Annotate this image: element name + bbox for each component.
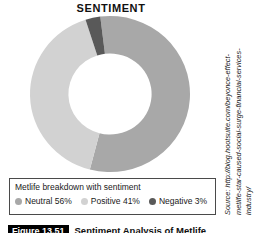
- legend-swatch-positive-icon: [81, 198, 88, 205]
- donut-slice-positive: [30, 20, 100, 170]
- legend-item-negative: Negative 3%: [149, 196, 207, 206]
- legend-label-positive: Positive 41%: [91, 196, 140, 206]
- source-note: Source: http://blog.hootsuite.com/beyonc…: [221, 0, 270, 218]
- page-title: SENTIMENT: [0, 2, 222, 14]
- donut-slice-neutral: [90, 16, 190, 172]
- donut-chart: [17, 14, 203, 174]
- legend-item-neutral: Neutral 56%: [15, 196, 72, 206]
- figure-caption: Figure 13.51 Sentiment Analysis of Metli…: [8, 225, 222, 233]
- donut-chart-svg: [17, 14, 203, 174]
- sentiment-figure: SENTIMENT Metlife breakdown with sentime…: [0, 0, 270, 233]
- source-line-3: industry/: [244, 1, 255, 215]
- source-line-2: metlife-star-caused-social-surge-financi…: [234, 1, 245, 215]
- figure-number-badge: Figure 13.51: [8, 225, 69, 233]
- source-note-text: Source: http://blog.hootsuite.com/beyonc…: [223, 1, 255, 215]
- source-line-1: Source: http://blog.hootsuite.com/beyonc…: [223, 1, 234, 215]
- donut-slices: [30, 16, 190, 172]
- figure-caption-text: Sentiment Analysis of Metlife: [75, 225, 207, 233]
- legend-title: Metlife breakdown with sentiment: [15, 182, 210, 193]
- legend-items: Neutral 56% Positive 41% Negative 3%: [15, 196, 210, 206]
- legend-item-positive: Positive 41%: [81, 196, 140, 206]
- legend: Metlife breakdown with sentiment Neutral…: [9, 178, 216, 215]
- legend-label-negative: Negative 3%: [159, 196, 207, 206]
- legend-swatch-neutral-icon: [15, 198, 22, 205]
- legend-label-neutral: Neutral 56%: [25, 196, 72, 206]
- legend-swatch-negative-icon: [149, 198, 156, 205]
